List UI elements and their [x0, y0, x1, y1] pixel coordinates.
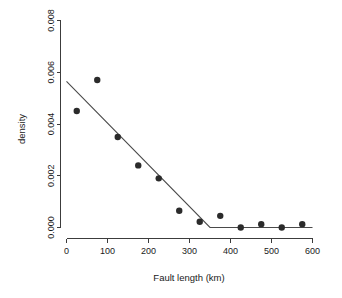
plot-canvas: 0.000 0.002 0.004 0.006 0.008 density 0 … — [0, 0, 342, 298]
data-point — [156, 175, 162, 181]
data-point — [299, 221, 305, 227]
x-tick-label: 500 — [264, 246, 279, 256]
x-tick-label: 600 — [305, 246, 320, 256]
data-point — [135, 162, 141, 168]
data-point — [197, 219, 203, 225]
x-axis-tick-labels: 0 100 200 300 400 500 600 — [64, 246, 320, 256]
data-point — [176, 207, 182, 213]
data-point — [217, 213, 223, 219]
x-tick-label: 400 — [223, 246, 238, 256]
data-point — [279, 224, 285, 230]
y-axis-title: density — [16, 114, 27, 144]
y-tick-label: 0.008 — [46, 9, 56, 32]
y-tick-label: 0.004 — [46, 113, 56, 136]
x-tick-label: 300 — [182, 246, 197, 256]
y-axis-tick-labels: 0.000 0.002 0.004 0.006 0.008 — [46, 9, 56, 239]
y-axis-ticks — [57, 21, 61, 228]
data-points-group — [74, 77, 306, 231]
y-tick-label: 0.006 — [46, 61, 56, 84]
x-tick-label: 0 — [64, 246, 69, 256]
x-tick-label: 200 — [141, 246, 156, 256]
x-axis-ticks — [67, 239, 313, 243]
x-axis-title: Fault length (km) — [153, 272, 224, 283]
y-tick-label: 0.002 — [46, 164, 56, 187]
data-point — [115, 134, 121, 140]
data-point — [74, 108, 80, 114]
regression-fit-line — [67, 81, 313, 227]
data-point — [238, 224, 244, 230]
data-point — [258, 221, 264, 227]
data-point — [94, 77, 100, 83]
scatter-plot-figure: 0.000 0.002 0.004 0.006 0.008 density 0 … — [0, 0, 342, 298]
y-tick-label: 0.000 — [46, 216, 56, 239]
x-tick-label: 100 — [100, 246, 115, 256]
